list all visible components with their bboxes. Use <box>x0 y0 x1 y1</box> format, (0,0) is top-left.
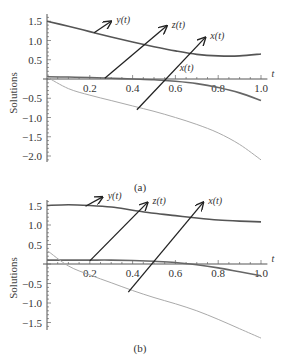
chart-panel-a: 1.51.00.5−0.5−1.0−1.5−2.00.20.40.60.81.0… <box>7 14 274 194</box>
annotation-arrow <box>105 26 167 78</box>
x-tick-label: 0.6 <box>169 82 183 94</box>
x-tick-label: 0.6 <box>169 267 183 279</box>
y-tick-label: −0.5 <box>22 92 42 104</box>
series-yt <box>47 205 261 222</box>
annotation-label: z(t) <box>152 195 167 207</box>
panel-label: (a) <box>134 181 147 194</box>
annotation-arrow <box>137 37 205 109</box>
x-tick-label: 0.4 <box>126 82 140 94</box>
annotation-label: z(t) <box>171 19 186 31</box>
x-tick-label: 0.4 <box>126 267 140 279</box>
y-tick-label: −1.0 <box>22 297 42 309</box>
x-axis-title: t <box>271 253 274 264</box>
series-zt <box>47 77 261 101</box>
annotation-label: y(t) <box>115 14 131 26</box>
x-axis-title: t <box>271 68 274 79</box>
panel-label: (b) <box>134 342 147 355</box>
annotation-arrow <box>86 197 103 206</box>
y-tick-label: −1.5 <box>22 131 42 143</box>
y-tick-label: −1.0 <box>22 112 42 124</box>
figure: 1.51.00.5−0.5−1.0−1.5−2.00.20.40.60.81.0… <box>0 0 283 360</box>
series-yt <box>47 21 261 56</box>
y-tick-label: −2.0 <box>22 150 42 162</box>
annotation-arrow <box>94 21 111 33</box>
annotation-label: x(t) <box>209 30 225 42</box>
annotation-label: x(t) <box>207 195 223 207</box>
chart-panel-b: 1.51.00.5−0.5−1.0−1.50.20.40.60.81.0tSol… <box>7 190 274 355</box>
y-tick-label: −0.5 <box>22 278 42 290</box>
x-tick-label: 1.0 <box>254 267 268 279</box>
annotation-arrow <box>128 202 203 292</box>
y-axis-title: Solutions <box>7 72 19 114</box>
y-tick-label: 1.5 <box>28 15 42 27</box>
annotation-arrow <box>90 202 148 261</box>
y-axis-title: Solutions <box>7 257 19 299</box>
y-tick-label: 0.5 <box>28 54 42 66</box>
y-tick-label: −1.5 <box>22 317 42 329</box>
y-tick-label: 0.5 <box>28 239 42 251</box>
y-tick-label: 1.5 <box>28 200 42 212</box>
y-tick-label: 1.0 <box>28 35 42 47</box>
x-tick-label: 0.2 <box>83 82 97 94</box>
y-tick-label: 1.0 <box>28 219 42 231</box>
annotation-label: x(t) <box>179 62 195 74</box>
x-tick-label: 1.0 <box>254 82 268 94</box>
annotation-label: y(t) <box>107 190 123 202</box>
